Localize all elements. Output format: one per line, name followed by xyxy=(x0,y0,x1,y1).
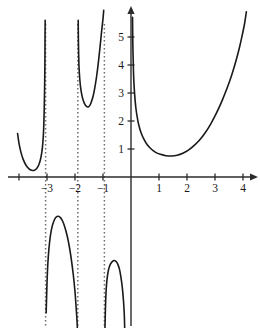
y-tick-label: 3 xyxy=(118,87,124,99)
x-tick-label: 2 xyxy=(184,182,190,194)
x-tick-label: −2 xyxy=(69,182,81,194)
x-axis-arrow xyxy=(250,173,258,180)
y-tick-label: 5 xyxy=(118,31,124,43)
curve-group xyxy=(18,10,247,328)
x-tick-label: 4 xyxy=(240,182,246,194)
curve-branch xyxy=(133,12,247,156)
y-tick-label: 2 xyxy=(118,115,124,127)
y-tick-label: 1 xyxy=(118,143,124,155)
y-tick-label: 4 xyxy=(118,59,124,71)
function-graph-plot: −3−2−1123412345 xyxy=(0,0,260,328)
tick-label-group: −3−2−1123412345 xyxy=(41,31,246,194)
y-axis-arrow xyxy=(127,6,134,14)
curve-branch xyxy=(105,260,125,328)
curve-branch xyxy=(46,216,77,328)
curve-branch xyxy=(18,20,46,170)
graph-figure: −3−2−1123412345 xyxy=(0,0,260,328)
x-tick-label: 3 xyxy=(212,182,218,194)
x-tick-label: −3 xyxy=(41,182,53,194)
curve-branch xyxy=(78,10,103,107)
x-tick-label: 1 xyxy=(156,182,162,194)
x-tick-label: −1 xyxy=(97,182,109,194)
